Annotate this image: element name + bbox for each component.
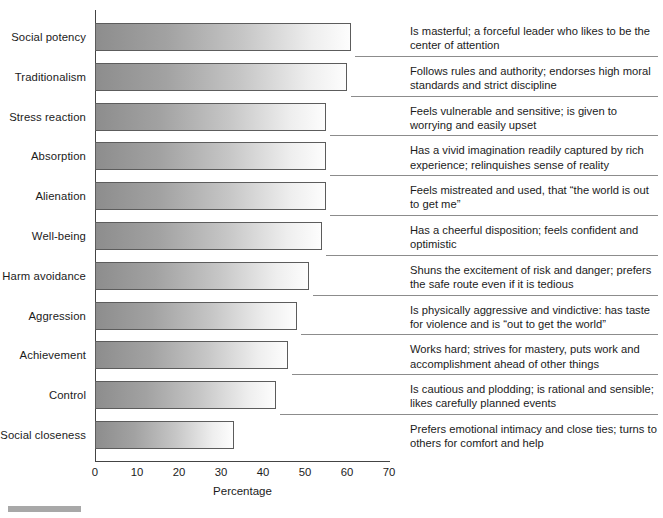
- description-text: Has a vivid imagination readily captured…: [410, 143, 658, 171]
- description-text: Is masterful; a forceful leader who like…: [410, 24, 658, 52]
- description-separator: [355, 56, 658, 57]
- description-separator: [313, 295, 658, 296]
- description-text: Works hard; strives for mastery, puts wo…: [410, 342, 658, 370]
- description-text: Has a cheerful disposition; feels confid…: [410, 223, 658, 251]
- description-separator: [330, 215, 658, 216]
- description-text: Follows rules and authority; endorses hi…: [410, 64, 658, 92]
- description-text: Prefers emotional intimacy and close tie…: [410, 422, 658, 450]
- description-text: Shuns the excitement of risk and danger;…: [410, 263, 658, 291]
- description-text: Feels vulnerable and sensitive; is given…: [410, 104, 658, 132]
- description-separator: [292, 374, 658, 375]
- description-separator: [351, 96, 658, 97]
- description-separator: [301, 334, 658, 335]
- description-column: Is masterful; a forceful leader who like…: [0, 0, 663, 518]
- description-separator: [280, 414, 658, 415]
- description-separator: [330, 135, 658, 136]
- description-separator: [330, 175, 658, 176]
- description-separator: [326, 255, 658, 256]
- horizontal-bar-chart: Social potencyTraditionalismStress react…: [0, 0, 663, 518]
- description-text: Is cautious and plodding; is rational an…: [410, 382, 658, 410]
- footer-mark: [8, 506, 81, 512]
- description-text: Is physically aggressive and vindictive:…: [410, 303, 658, 331]
- description-text: Feels mistreated and used, that “the wor…: [410, 183, 658, 211]
